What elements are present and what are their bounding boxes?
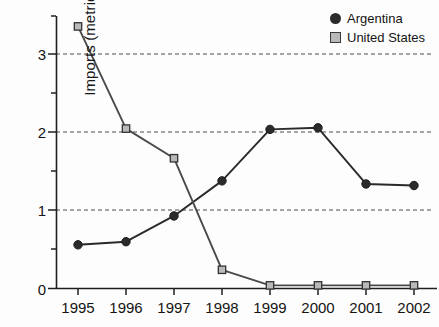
data-point[interactable]	[314, 282, 321, 289]
y-axis-title: Imports (metric tons)	[78, 0, 100, 171]
x-tick-label-1999: 1999	[244, 300, 296, 315]
gridlines	[56, 54, 433, 210]
data-point[interactable]	[122, 238, 130, 246]
data-point[interactable]	[170, 155, 177, 162]
x-tick-label-1997: 1997	[148, 300, 200, 315]
circle-marker-icon	[330, 13, 341, 24]
x-tick-label-2000: 2000	[292, 300, 344, 315]
data-series-layer	[74, 23, 418, 289]
data-point[interactable]	[266, 282, 273, 289]
y-axis-title-wrap: Imports (metric tons)	[24, 15, 46, 305]
data-point[interactable]	[362, 180, 370, 188]
square-marker-icon	[330, 32, 341, 43]
data-point[interactable]	[266, 125, 274, 133]
data-point[interactable]	[218, 266, 225, 273]
axis-spines	[56, 16, 437, 289]
x-tick-label-1998: 1998	[196, 300, 248, 315]
plot-area	[0, 0, 439, 327]
data-point[interactable]	[122, 125, 129, 132]
x-tick-label-1995: 1995	[52, 300, 104, 315]
y-axis-ticks	[48, 16, 56, 289]
x-tick-label-2002: 2002	[388, 300, 439, 315]
data-point[interactable]	[410, 282, 417, 289]
data-point[interactable]	[74, 241, 82, 249]
legend-label-argentina: Argentina	[347, 12, 403, 25]
data-point[interactable]	[170, 212, 178, 220]
legend: Argentina United States	[330, 11, 425, 45]
x-tick-label-1996: 1996	[100, 300, 152, 315]
series-argentina	[74, 124, 418, 249]
data-point[interactable]	[218, 177, 226, 185]
x-tick-label-2001: 2001	[340, 300, 392, 315]
legend-label-united-states: United States	[347, 31, 425, 44]
data-point[interactable]	[314, 124, 322, 132]
legend-item-argentina[interactable]: Argentina	[330, 11, 425, 26]
data-point[interactable]	[410, 181, 418, 189]
data-point[interactable]	[362, 282, 369, 289]
legend-item-united-states[interactable]: United States	[330, 30, 425, 45]
line-chart: 0 1 2 3 1995 1996 1997 1998 1999 2000 20…	[0, 0, 439, 327]
